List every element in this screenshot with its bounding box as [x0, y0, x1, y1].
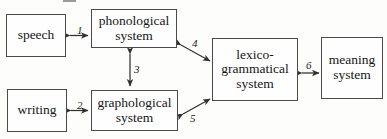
connection-label-6: 6 [306, 60, 312, 71]
node-phonological-system: phonological system [91, 9, 177, 48]
node-phonological-system-label: phonological system [92, 14, 176, 43]
connection-label-2: 2 [77, 100, 83, 111]
connection-label-3: 3 [134, 64, 140, 75]
arrow-5 [183, 99, 210, 114]
node-speech-label: speech [16, 28, 57, 43]
node-meaning-system-label: meaning system [322, 53, 382, 82]
node-lexico-grammatical-system: lexico-grammatical system [212, 38, 298, 101]
node-writing-label: writing [16, 103, 59, 118]
node-speech: speech [6, 14, 66, 57]
node-graphological-system: graphological system [91, 90, 178, 131]
diagram-canvas: speech writing phonological system graph… [0, 0, 387, 139]
node-meaning-system: meaning system [321, 37, 383, 99]
connection-label-4: 4 [192, 38, 198, 49]
connection-label-1: 1 [77, 25, 83, 36]
node-writing: writing [7, 89, 67, 132]
node-graphological-system-label: graphological system [92, 96, 177, 125]
node-lexico-grammatical-system-label: lexico-grammatical system [213, 48, 297, 92]
connection-label-5: 5 [190, 113, 196, 124]
